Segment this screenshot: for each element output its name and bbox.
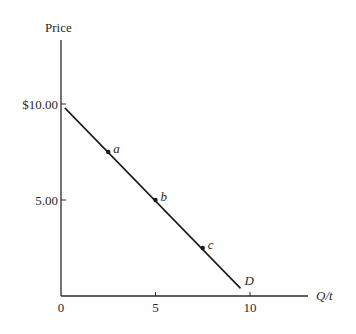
x-tick-label: 10 bbox=[244, 300, 257, 315]
x-tick-label: 0 bbox=[58, 300, 65, 315]
x-axis-label: Q/t bbox=[316, 288, 333, 303]
point-marker bbox=[153, 198, 157, 202]
point-label: a bbox=[113, 141, 120, 156]
demand-chart: 0510 $10.005.00 Price Q/t D abc bbox=[0, 0, 356, 334]
point-label: c bbox=[208, 237, 214, 252]
y-axis-label: Price bbox=[45, 20, 72, 35]
y-tick-label: $10.00 bbox=[22, 97, 58, 112]
demand-curve-label: D bbox=[244, 273, 255, 288]
x-tick-label: 5 bbox=[152, 300, 159, 315]
y-tick-label: 5.00 bbox=[35, 193, 58, 208]
point-label: b bbox=[161, 189, 168, 204]
labeled-points: abc bbox=[106, 141, 214, 252]
point-marker bbox=[106, 150, 110, 154]
y-ticks: $10.005.00 bbox=[22, 97, 66, 208]
point-marker bbox=[201, 246, 205, 250]
demand-curve bbox=[65, 108, 241, 288]
